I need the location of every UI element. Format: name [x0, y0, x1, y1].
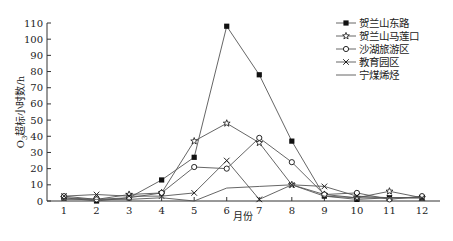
square-marker-icon [224, 24, 229, 29]
series-open-circle [61, 135, 424, 202]
y-tick-label: 30 [30, 147, 43, 158]
x-tick-label: 10 [351, 205, 364, 216]
y-tick-label: 50 [30, 115, 43, 126]
y-tick-label: 0 [37, 196, 43, 207]
circle-marker-icon [192, 164, 197, 169]
x-tick-label: 5 [191, 205, 197, 216]
legend-item: 沙湖旅游区 [336, 43, 409, 55]
y-tick-label: 10 [30, 179, 43, 190]
series-line [64, 138, 422, 199]
y-tick-label: 80 [30, 66, 43, 77]
square-marker-icon [159, 177, 164, 182]
x-tick-label: 11 [383, 205, 396, 216]
x-marker-icon [224, 158, 230, 164]
y-tick-label: 100 [24, 34, 43, 45]
y-tick-label: 110 [24, 18, 43, 29]
x-tick-label: 1 [61, 205, 67, 216]
y-axis-title-rest: 超标小时数/h [14, 75, 26, 135]
x-tick-label: 2 [93, 205, 99, 216]
series-star [61, 120, 426, 203]
legend-item: 教育园区 [336, 56, 399, 68]
legend-item: 宁煤烯烃 [336, 69, 400, 81]
x-tick-label: 7 [256, 205, 262, 216]
y-axis-title: O3超标小时数/h [14, 75, 29, 148]
y-axis-title-o: O [15, 140, 26, 148]
legend-label: 宁煤烯烃 [359, 69, 400, 81]
legend-label: 贺兰山马莲口 [359, 30, 419, 42]
circle-marker-icon [257, 135, 262, 140]
legend-label: 教育园区 [359, 56, 399, 68]
x-tick-label: 8 [289, 205, 295, 216]
legend-item: 贺兰山东路 [336, 17, 410, 29]
star-marker-icon [343, 32, 350, 39]
y-tick-label: 60 [30, 98, 43, 109]
series-line [64, 161, 422, 200]
x-tick-label: 3 [126, 205, 132, 216]
ozone-exceedance-line-chart: 0102030405060708090100110123456789101112… [0, 0, 453, 241]
square-marker-icon [289, 139, 294, 144]
circle-marker-icon [289, 160, 294, 165]
y-tick-label: 40 [30, 131, 43, 142]
square-marker-icon [343, 20, 348, 25]
series-line [64, 123, 422, 199]
x-tick-label: 6 [224, 205, 230, 216]
star-marker-icon [191, 138, 198, 145]
y-tick-label: 90 [30, 50, 43, 61]
circle-marker-icon [343, 46, 348, 51]
legend-item: 贺兰山马莲口 [336, 30, 419, 42]
square-marker-icon [257, 72, 262, 77]
square-marker-icon [192, 155, 197, 160]
x-axis-title: 月份 [233, 211, 253, 222]
legend-label: 贺兰山东路 [359, 17, 410, 29]
legend-label: 沙湖旅游区 [359, 43, 409, 55]
legend: 贺兰山东路贺兰山马莲口沙湖旅游区教育园区宁煤烯烃 [336, 17, 419, 81]
x-tick-label: 12 [416, 205, 429, 216]
y-tick-label: 70 [30, 82, 43, 93]
circle-marker-icon [224, 166, 229, 171]
x-tick-label: 9 [321, 205, 327, 216]
y-tick-label: 20 [30, 163, 43, 174]
star-marker-icon [386, 188, 393, 195]
x-tick-label: 4 [158, 205, 164, 216]
